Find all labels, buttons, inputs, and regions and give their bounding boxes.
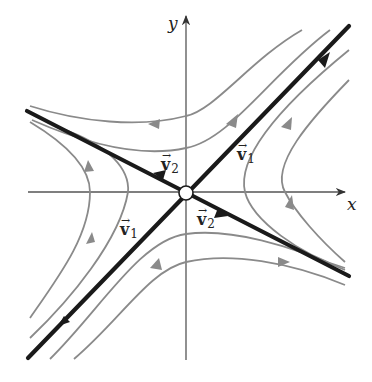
trajectory-upper-1 — [30, 30, 302, 122]
x-axis-label: x — [347, 196, 357, 213]
v2-label-upper-sub: 2 — [171, 162, 179, 176]
vector-arrow-icon: → — [238, 140, 247, 151]
v1-label-upper: →v1 — [237, 147, 255, 165]
v1-label-upper-sub: 1 — [247, 152, 255, 166]
arrow-left-icon — [148, 119, 160, 129]
v1-label-lower-sub: 1 — [130, 227, 138, 241]
vector-arrow-icon: → — [121, 215, 130, 226]
origin-marker — [179, 186, 193, 200]
vector-arrow-icon: → — [162, 150, 171, 161]
v2-label-upper: →v2 — [161, 157, 179, 175]
trajectory-right-2 — [282, 80, 349, 262]
phase-portrait — [0, 0, 372, 382]
y-axis-label: y — [168, 15, 178, 32]
v1-label-lower: →v1 — [120, 222, 138, 240]
vector-arrow-icon: → — [198, 205, 207, 216]
arrow-down-left-icon — [281, 117, 292, 130]
v2-label-lower: →v2 — [197, 212, 215, 230]
arrow-down-icon — [285, 195, 294, 210]
trajectory-lower-2 — [74, 258, 345, 359]
arrow-up-right-icon — [86, 232, 95, 244]
arrow-up-right-icon — [150, 258, 162, 270]
trajectory-left-1 — [30, 122, 90, 318]
arrow-up-icon — [84, 160, 94, 172]
v2-label-lower-sub: 2 — [207, 217, 215, 231]
